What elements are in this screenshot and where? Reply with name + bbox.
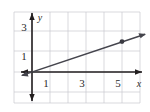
y-axis-arrow-up-icon bbox=[29, 13, 34, 20]
y-tick-label-3: 3 bbox=[21, 21, 27, 33]
x-axis-label: x bbox=[136, 78, 142, 89]
coordinate-plane-figure: 1 3 5 1 3 x y bbox=[0, 0, 150, 112]
y-axis bbox=[29, 13, 34, 101]
x-tick-label-5: 5 bbox=[115, 77, 121, 89]
x-tick-label-1: 1 bbox=[43, 77, 49, 89]
plotted-line-arrow-right-icon bbox=[138, 33, 146, 38]
x-tick-label-3: 3 bbox=[79, 77, 85, 89]
x-axis-arrow-right-icon bbox=[135, 69, 142, 74]
y-axis-arrow-down-icon bbox=[29, 94, 34, 101]
y-axis-label: y bbox=[37, 12, 43, 23]
plotted-point-marker bbox=[120, 39, 125, 44]
plotted-line-series bbox=[21, 33, 146, 76]
graph-screenshot: 1 3 5 1 3 x y bbox=[0, 0, 150, 112]
plotted-line bbox=[22, 34, 145, 75]
y-tick-label-1: 1 bbox=[21, 50, 27, 62]
